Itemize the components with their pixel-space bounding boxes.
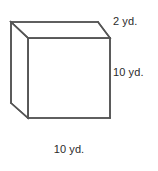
depth-dimension-label: 2 yd.	[113, 15, 137, 28]
width-dimension-label: 10 yd.	[0, 143, 138, 156]
cube-front-face	[28, 38, 110, 118]
cube-figure: 2 yd. 10 yd. 10 yd.	[0, 0, 158, 171]
height-dimension-label: 10 yd.	[113, 66, 144, 79]
